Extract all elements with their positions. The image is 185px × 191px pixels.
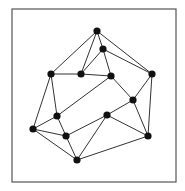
edge-F-I [111,76,133,100]
edge-M-L [77,115,107,160]
diagram-frame [12,9,176,182]
edge-C-F [81,74,111,76]
edge-B-G [51,74,57,116]
edge-E-I [133,74,152,100]
edge-L-J [77,136,148,160]
edge-K-M [66,115,107,136]
node-L [73,156,80,163]
edge-A-E [97,31,152,74]
edge-group [33,31,152,160]
node-A [93,27,100,34]
node-B [47,70,54,77]
graph-diagram [0,0,185,191]
node-K [62,132,69,139]
edge-M-J [107,115,148,136]
edge-F-G [57,76,111,116]
edge-I-J [133,100,148,136]
edge-A-C [81,31,97,74]
node-G [53,112,60,119]
node-J [144,132,151,139]
node-H [29,125,36,132]
node-D [99,45,106,52]
edge-E-J [148,74,152,136]
node-M [103,111,110,118]
edge-A-B [51,31,97,74]
edge-D-E [103,49,152,74]
edge-M-I [107,100,133,115]
node-C [77,70,84,77]
edge-D-F [103,49,111,76]
node-I [129,96,136,103]
node-F [107,72,114,79]
edge-D-C [81,49,103,74]
node-E [148,70,155,77]
